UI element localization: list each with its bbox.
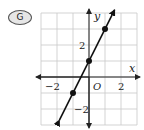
x-axis-label: x (129, 62, 136, 75)
x-tick-label-2: 2 (118, 81, 124, 92)
data-point (86, 58, 92, 64)
data-point (70, 90, 76, 96)
y-axis-label: y (93, 10, 101, 23)
origin-label: O (93, 81, 101, 92)
y-tick-label-2: 2 (79, 40, 85, 51)
data-point (102, 26, 108, 32)
y-tick-label-neg2: −2 (74, 104, 89, 115)
x-tick-label-neg2: −2 (45, 81, 60, 92)
coordinate-graph: y x O −2 2 2 −2 (0, 0, 144, 130)
